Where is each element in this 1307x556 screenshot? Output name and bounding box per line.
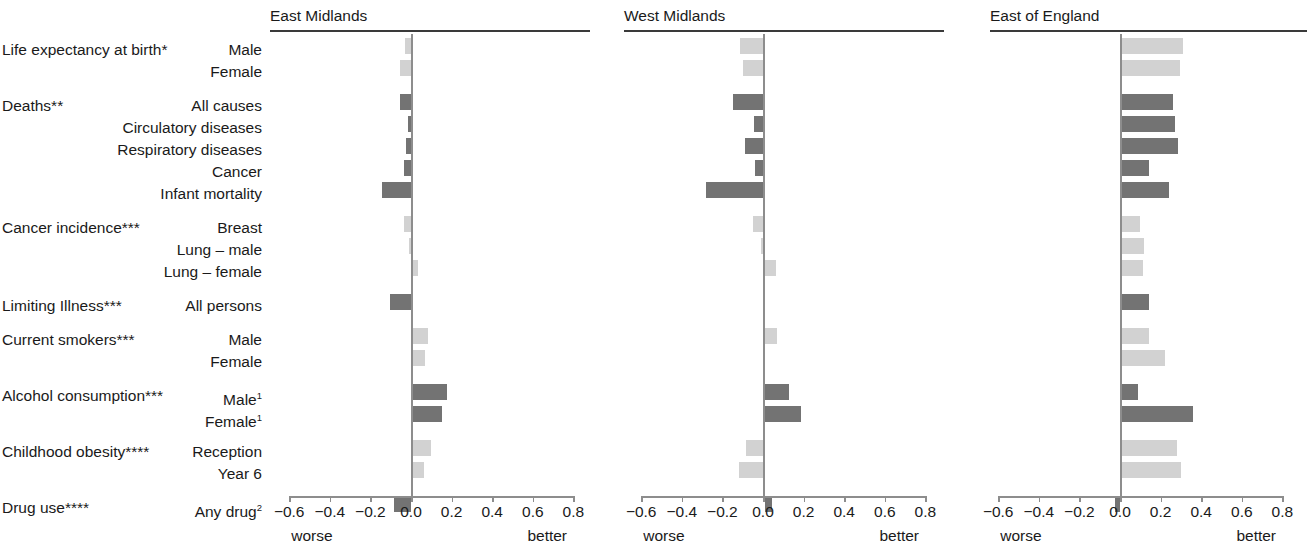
x-axis-tick-label: 0.8 — [1256, 504, 1307, 520]
bar — [1122, 260, 1143, 276]
bar — [408, 116, 411, 132]
x-axis-tick — [682, 496, 684, 502]
panel-title: East Midlands — [270, 8, 367, 24]
x-axis-tick — [925, 496, 927, 502]
bar — [761, 238, 763, 254]
group-title: Drug use**** — [2, 500, 89, 516]
bar — [753, 216, 763, 232]
bar — [1122, 238, 1144, 254]
footnote-marker: 1 — [257, 390, 262, 401]
bar — [1122, 350, 1166, 366]
axis-label-better: better — [527, 528, 567, 544]
row-label: Year 6 — [218, 466, 262, 482]
row-label: All persons — [185, 298, 262, 314]
group-title: Childhood obesity**** — [2, 444, 149, 460]
bar — [1122, 462, 1182, 478]
x-axis-tick — [1120, 496, 1122, 502]
bar — [1122, 160, 1149, 176]
x-axis-line — [641, 496, 925, 498]
row-label: Breast — [217, 220, 262, 236]
bar — [1122, 60, 1181, 76]
panel-title: West Midlands — [624, 8, 725, 24]
bar — [754, 116, 763, 132]
x-axis-tick — [411, 496, 413, 502]
row-label: Cancer — [212, 164, 262, 180]
panel-underline — [990, 30, 1307, 32]
bar — [1122, 440, 1178, 456]
bar — [382, 182, 411, 198]
axis-label-worse: worse — [643, 528, 684, 544]
bar — [1122, 406, 1193, 422]
row-label: All causes — [191, 98, 262, 114]
bar — [765, 406, 802, 422]
x-axis-tick-label: 0.8 — [547, 504, 599, 520]
panel-underline — [270, 30, 590, 32]
bar — [400, 94, 411, 110]
row-label: Female — [210, 64, 262, 80]
panel-title: East of England — [990, 8, 1099, 24]
row-label: Female1 — [205, 410, 262, 430]
bar — [1122, 216, 1140, 232]
chart-panel: East of England−0.6−0.4−0.20.00.20.40.60… — [990, 0, 1307, 556]
axis-label-worse: worse — [291, 528, 332, 544]
group-title: Deaths** — [2, 98, 63, 114]
bar — [413, 406, 442, 422]
bar — [746, 440, 763, 456]
bar — [1122, 384, 1138, 400]
group-title: Alcohol consumption*** — [2, 388, 163, 404]
bar — [733, 94, 763, 110]
bar — [1122, 94, 1174, 110]
row-label: Lung – male — [177, 242, 262, 258]
panel-underline — [624, 30, 944, 32]
x-axis-line — [998, 496, 1282, 498]
bar — [390, 294, 411, 310]
x-axis-tick — [1282, 496, 1284, 502]
row-label-column: MaleFemaleLife expectancy at birth*All c… — [0, 0, 270, 556]
bar — [1122, 294, 1149, 310]
x-axis-tick — [763, 496, 765, 502]
bar — [413, 462, 424, 478]
bar — [740, 38, 763, 54]
bar — [1122, 328, 1149, 344]
x-axis-tick — [1201, 496, 1203, 502]
bar — [743, 60, 763, 76]
x-axis-tick — [330, 496, 332, 502]
bar — [400, 60, 411, 76]
x-axis-tick — [1039, 496, 1041, 502]
bar — [409, 238, 411, 254]
bar — [739, 462, 763, 478]
row-label: Female — [210, 354, 262, 370]
group-title: Current smokers*** — [2, 332, 135, 348]
footnote-marker: 2 — [257, 502, 262, 513]
x-axis-tick — [885, 496, 887, 502]
bar — [755, 160, 763, 176]
bar — [765, 328, 777, 344]
bar — [765, 260, 776, 276]
row-label: Male — [228, 332, 262, 348]
x-axis-tick — [641, 496, 643, 502]
x-axis-tick — [1079, 496, 1081, 502]
x-axis-tick — [1161, 496, 1163, 502]
chart-panel: East Midlands−0.6−0.4−0.20.00.20.40.60.8… — [270, 0, 590, 556]
row-label: Infant mortality — [160, 186, 262, 202]
bar — [413, 260, 418, 276]
x-axis-tick — [804, 496, 806, 502]
x-axis-tick — [370, 496, 372, 502]
chart-root: MaleFemaleLife expectancy at birth*All c… — [0, 0, 1307, 556]
x-axis-line — [289, 496, 573, 498]
x-axis-tick — [533, 496, 535, 502]
row-label: Respiratory diseases — [117, 142, 262, 158]
row-label: Circulatory diseases — [122, 120, 262, 136]
bar — [406, 138, 411, 154]
x-axis-tick — [573, 496, 575, 502]
axis-label-better: better — [879, 528, 919, 544]
row-label: Reception — [192, 444, 262, 460]
bar — [413, 350, 425, 366]
x-axis-tick — [722, 496, 724, 502]
row-label: Lung – female — [164, 264, 262, 280]
group-title: Limiting Illness*** — [2, 298, 122, 314]
group-title: Life expectancy at birth* — [2, 42, 167, 58]
x-axis-tick — [998, 496, 1000, 502]
bar — [404, 160, 411, 176]
bar — [405, 38, 411, 54]
